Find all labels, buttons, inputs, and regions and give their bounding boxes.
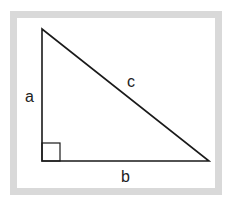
right-triangle <box>42 29 209 161</box>
triangle-diagram <box>0 0 230 205</box>
side-label-b: b <box>121 169 130 185</box>
side-label-c: c <box>127 74 135 90</box>
side-label-a: a <box>25 89 34 105</box>
right-angle-marker <box>42 143 60 161</box>
